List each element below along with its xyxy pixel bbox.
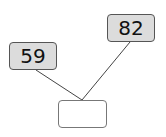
part-value-left: 59 — [20, 44, 45, 68]
part-box-right: 82 — [107, 14, 155, 42]
part-box-left: 59 — [9, 42, 57, 70]
part-value-right: 82 — [118, 16, 143, 40]
connector-left — [36, 70, 82, 100]
connector-right — [82, 42, 130, 100]
answer-box[interactable] — [58, 100, 107, 128]
